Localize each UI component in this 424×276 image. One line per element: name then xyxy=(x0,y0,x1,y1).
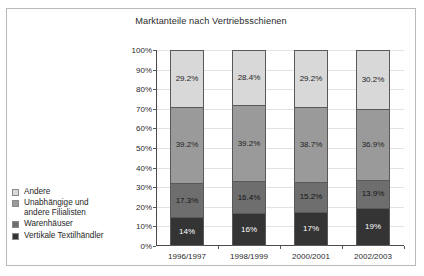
x-tick-mark xyxy=(342,246,343,249)
bar-segment[interactable]: 13.9% xyxy=(356,180,390,208)
y-tick-label: 80% xyxy=(136,85,152,94)
legend-swatch-icon xyxy=(12,221,19,228)
y-tick-label: 0% xyxy=(140,242,152,251)
y-tick-label: 40% xyxy=(136,163,152,172)
x-tick-label: 1996/1997 xyxy=(168,252,206,261)
legend-item[interactable]: Vertikale Textilhändler xyxy=(12,231,130,240)
legend-item-label: Vertikale Textilhändler xyxy=(24,231,104,240)
bar-group: 29.2%39.2%17.3%14%28.4%39.2%16.4%16%29.2… xyxy=(156,50,404,246)
bar-segment[interactable]: 38.7% xyxy=(294,107,328,182)
bar-segment[interactable]: 15.2% xyxy=(294,182,328,212)
x-tick-mark xyxy=(404,246,405,249)
y-axis-tick-labels: 0%10%20%30%40%50%60%70%80%90%100% xyxy=(122,50,152,246)
legend-item[interactable]: Andere xyxy=(12,187,130,196)
bar-segment-label: 28.4% xyxy=(238,74,261,82)
bar-segment[interactable]: 39.2% xyxy=(170,107,204,183)
bar-segment-label: 36.9% xyxy=(362,141,385,149)
y-tick-label: 50% xyxy=(136,144,152,153)
bar-segment-label: 29.2% xyxy=(300,75,323,83)
x-tick-mark xyxy=(218,246,219,249)
bar-segment[interactable]: 17% xyxy=(294,212,328,246)
bar-segment-label: 30.2% xyxy=(362,76,385,84)
chart-legend: AndereUnabhängige und andere Filialisten… xyxy=(12,187,130,242)
legend-swatch-icon xyxy=(12,200,19,207)
bar-segment[interactable]: 29.2% xyxy=(170,50,204,107)
bar-segment-label: 15.2% xyxy=(300,193,323,201)
stacked-bar[interactable]: 29.2%39.2%17.3%14% xyxy=(170,50,204,246)
chart-title: Marktanteile nach Vertriebsschienen xyxy=(6,16,416,26)
y-tick-label: 90% xyxy=(136,65,152,74)
legend-item[interactable]: Unabhängige und andere Filialisten xyxy=(12,198,130,217)
bar-segment-label: 29.2% xyxy=(176,75,199,83)
x-tick-label: 2000/2001 xyxy=(292,252,330,261)
x-tick-label: 2002/2003 xyxy=(354,252,392,261)
legend-item-label: Warenhäuser xyxy=(24,219,73,228)
y-tick-label: 70% xyxy=(136,104,152,113)
bar-segment[interactable]: 14% xyxy=(170,217,204,246)
legend-swatch-icon xyxy=(12,189,19,196)
legend-item[interactable]: Warenhäuser xyxy=(12,219,130,228)
bar-segment[interactable]: 30.2% xyxy=(356,50,390,109)
bar-segment[interactable]: 17.3% xyxy=(170,183,204,217)
x-tick-mark xyxy=(280,246,281,249)
y-tick-label: 20% xyxy=(136,202,152,211)
bar-segment[interactable]: 29.2% xyxy=(294,50,328,107)
bar-segment-label: 13.9% xyxy=(362,190,385,198)
stacked-bar[interactable]: 29.2%38.7%15.2%17% xyxy=(294,50,328,246)
y-tick-label: 10% xyxy=(136,222,152,231)
bar-segment-label: 39.2% xyxy=(176,141,199,149)
y-tick-label: 60% xyxy=(136,124,152,133)
bar-segment[interactable]: 19% xyxy=(356,208,390,246)
legend-item-label: Unabhängige und andere Filialisten xyxy=(24,198,89,217)
bar-segment-label: 17.3% xyxy=(176,197,199,205)
bar-segment[interactable]: 36.9% xyxy=(356,109,390,180)
bar-segment-label: 16% xyxy=(241,226,257,234)
stacked-bar[interactable]: 30.2%36.9%13.9%19% xyxy=(356,50,390,246)
bar-segment[interactable]: 39.2% xyxy=(232,105,266,181)
bar-segment-label: 16.4% xyxy=(238,194,261,202)
chart-figure: Marktanteile nach Vertriebsschienen Ande… xyxy=(0,0,424,276)
legend-swatch-icon xyxy=(12,233,19,240)
bar-segment-label: 38.7% xyxy=(300,141,323,149)
x-tick-label: 1998/1999 xyxy=(230,252,268,261)
plot-area: 0%10%20%30%40%50%60%70%80%90%100% 29.2%3… xyxy=(156,50,404,246)
bar-segment[interactable]: 28.4% xyxy=(232,50,266,105)
stacked-bar[interactable]: 28.4%39.2%16.4%16% xyxy=(232,50,266,246)
bar-segment-label: 19% xyxy=(365,223,381,231)
y-tick-mark xyxy=(153,246,156,247)
x-axis-tick-labels: 1996/19971998/19992000/20012002/2003 xyxy=(156,252,404,266)
bar-segment-label: 39.2% xyxy=(238,140,261,148)
bar-segment[interactable]: 16% xyxy=(232,213,266,246)
bar-segment-label: 14% xyxy=(179,228,195,236)
y-tick-label: 100% xyxy=(132,46,152,55)
bar-segment[interactable]: 16.4% xyxy=(232,181,266,213)
y-tick-label: 30% xyxy=(136,183,152,192)
bar-segment-label: 17% xyxy=(303,225,319,233)
legend-item-label: Andere xyxy=(24,187,50,196)
